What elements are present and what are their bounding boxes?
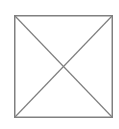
crossed-box-icon [14,15,113,118]
image-placeholder [14,15,113,118]
